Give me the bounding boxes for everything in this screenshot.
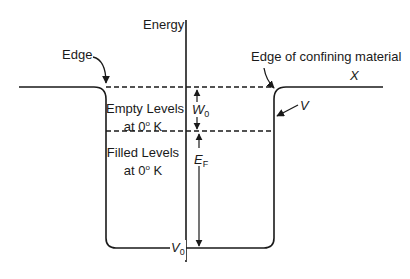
filled-levels-label: Filled Levels at 0o K <box>106 145 180 178</box>
edge-label: Edge <box>62 47 92 62</box>
w0-label: W0 <box>192 102 209 122</box>
v0-symbol: V <box>171 240 180 255</box>
potential-well-diagram <box>0 0 410 279</box>
ef-symbol: E <box>194 152 203 167</box>
ef-subscript: F <box>203 159 209 169</box>
edge-confining-label: Edge of confining material <box>251 49 401 64</box>
v0-subscript: 0 <box>180 247 185 257</box>
empty-levels-line1: Empty Levels <box>106 101 180 116</box>
x-axis-label: X <box>350 68 359 83</box>
edge-confining-pointer-arrow <box>264 68 274 88</box>
filled-levels-line1: Filled Levels <box>106 145 180 160</box>
w0-subscript: 0 <box>204 109 209 119</box>
v-pointer-arrow <box>277 105 298 116</box>
energy-axis-label: Energy <box>143 17 184 32</box>
temp-unit: K <box>150 119 162 134</box>
temp-unit: K <box>150 163 162 178</box>
empty-levels-line2: at 0o K <box>106 116 180 134</box>
ef-label: EF <box>194 152 208 172</box>
temp-prefix: at 0 <box>124 119 146 134</box>
w0-symbol: W <box>192 102 204 117</box>
potential-v-label: V <box>300 98 309 113</box>
filled-levels-line2: at 0o K <box>106 160 180 178</box>
empty-levels-label: Empty Levels at 0o K <box>106 101 180 134</box>
temp-prefix: at 0 <box>124 163 146 178</box>
v0-label: V0 <box>170 240 186 260</box>
edge-pointer-arrow <box>93 57 106 83</box>
